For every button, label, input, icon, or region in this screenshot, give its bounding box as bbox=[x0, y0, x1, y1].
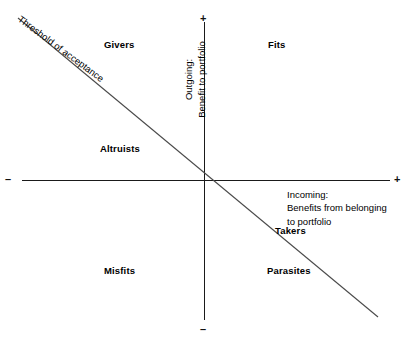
x-axis-caption-line-1: Incoming: bbox=[287, 188, 387, 201]
quadrant-label-fits: Fits bbox=[268, 40, 286, 50]
quadrant-label-altruists: Altruists bbox=[100, 144, 140, 154]
x-axis-caption: Incoming: Benefits from belonging to por… bbox=[287, 188, 387, 228]
quadrant-label-parasites: Parasites bbox=[267, 266, 311, 276]
quadrant-label-givers: Givers bbox=[104, 40, 134, 50]
quadrant-diagram: – + + – Threshold of acceptance Givers F… bbox=[0, 0, 410, 346]
x-axis-negative-sign: – bbox=[5, 174, 11, 185]
quadrant-label-misfits: Misfits bbox=[104, 266, 135, 276]
horizontal-axis bbox=[22, 180, 390, 181]
x-axis-positive-sign: + bbox=[394, 174, 400, 185]
x-axis-caption-line-3: to portfolio bbox=[287, 215, 387, 228]
y-axis-caption-line-2: Benefit to portfolio bbox=[195, 0, 208, 164]
x-axis-caption-line-2: Benefits from belonging bbox=[287, 201, 387, 214]
y-axis-caption: Outgoing: Benefit to portfolio bbox=[182, 0, 209, 164]
y-axis-negative-sign: – bbox=[200, 324, 206, 335]
threshold-of-acceptance-label: Threshold of acceptance bbox=[16, 14, 105, 84]
y-axis-caption-line-1: Outgoing: bbox=[182, 0, 195, 164]
